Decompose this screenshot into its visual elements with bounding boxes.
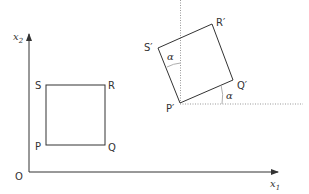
vertex-r-prime-label: R′ [216, 17, 226, 28]
angle-arc-vertical [167, 63, 181, 67]
x2-axis-label: x2 [13, 31, 24, 45]
original-square [46, 85, 105, 145]
angle-alpha-label-1: α [167, 51, 174, 62]
vertex-q-prime-label: Q′ [237, 80, 248, 91]
origin-label: O [15, 171, 23, 182]
rotated-square [158, 24, 233, 103]
vertex-p-label: P [35, 141, 41, 152]
angle-arc-horizontal [221, 85, 223, 104]
vertex-r-label: R [108, 80, 115, 91]
vertex-s-prime-label: S′ [144, 42, 153, 53]
vertex-s-label: S [35, 80, 41, 91]
vertex-p-prime-label: P′ [166, 103, 175, 114]
angle-alpha-label-2: α [226, 90, 233, 101]
vertex-q-label: Q [108, 142, 116, 153]
rotation-diagram: O x2 x1 S R P Q S′ R′ Q′ P′ α α [0, 0, 309, 194]
x1-axis-label: x1 [270, 178, 280, 192]
